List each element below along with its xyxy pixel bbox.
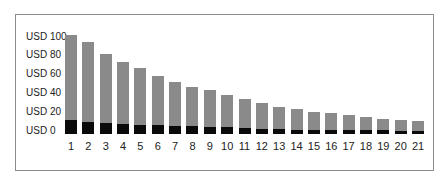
bar-1 bbox=[65, 35, 77, 134]
y-tick-label: USD 0 bbox=[26, 126, 70, 136]
bar-segment-base bbox=[325, 130, 337, 134]
x-tick-label: 18 bbox=[357, 141, 375, 152]
bar-21 bbox=[412, 121, 424, 134]
x-tick-label: 6 bbox=[149, 141, 167, 152]
x-tick-label: 19 bbox=[374, 141, 392, 152]
bar-segment-base bbox=[377, 130, 389, 134]
bar-segment-remainder bbox=[325, 113, 337, 130]
bar-16 bbox=[325, 113, 337, 134]
bar-segment-remainder bbox=[152, 76, 164, 125]
bar-segment-base bbox=[134, 125, 146, 134]
bar-segment-remainder bbox=[65, 35, 77, 120]
x-tick-label: 7 bbox=[166, 141, 184, 152]
bar-7 bbox=[169, 82, 181, 134]
bar-13 bbox=[273, 107, 285, 134]
bar-segment-base bbox=[204, 127, 216, 134]
bar-6 bbox=[152, 76, 164, 134]
y-tick-label: USD 20 bbox=[26, 107, 70, 117]
bar-segment-base bbox=[221, 127, 233, 134]
x-tick-label: 3 bbox=[97, 141, 115, 152]
x-tick-label: 15 bbox=[305, 141, 323, 152]
bar-12 bbox=[256, 103, 268, 134]
bar-segment-base bbox=[360, 130, 372, 134]
bar-segment-remainder bbox=[186, 87, 198, 126]
bar-10 bbox=[221, 95, 233, 134]
bar-5 bbox=[134, 68, 146, 134]
bar-segment-base bbox=[256, 129, 268, 134]
bar-14 bbox=[291, 109, 303, 134]
bar-segment-remainder bbox=[343, 115, 355, 130]
bar-segment-remainder bbox=[412, 121, 424, 131]
x-tick-label: 17 bbox=[340, 141, 358, 152]
bar-4 bbox=[117, 62, 129, 134]
y-tick-label: USD 40 bbox=[26, 88, 70, 98]
x-tick-label: 10 bbox=[218, 141, 236, 152]
bar-segment-base bbox=[82, 122, 94, 134]
bar-segment-base bbox=[273, 129, 285, 134]
y-tick-label: USD 100 bbox=[26, 32, 70, 42]
x-tick-label: 16 bbox=[322, 141, 340, 152]
bar-2 bbox=[82, 42, 94, 134]
x-tick-label: 12 bbox=[253, 141, 271, 152]
bar-segment-base bbox=[100, 123, 112, 134]
bar-segment-remainder bbox=[308, 112, 320, 129]
x-tick-label: 2 bbox=[79, 141, 97, 152]
bar-segment-base bbox=[169, 126, 181, 134]
bar-segment-remainder bbox=[395, 120, 407, 131]
bar-11 bbox=[239, 99, 251, 134]
x-tick-label: 11 bbox=[236, 141, 254, 152]
bar-3 bbox=[100, 54, 112, 134]
x-tick-label: 9 bbox=[201, 141, 219, 152]
bar-segment-base bbox=[186, 126, 198, 134]
bar-segment-base bbox=[117, 124, 129, 134]
bar-9 bbox=[204, 90, 216, 134]
bar-segment-base bbox=[239, 128, 251, 134]
x-tick-label: 21 bbox=[409, 141, 427, 152]
x-tick-label: 20 bbox=[392, 141, 410, 152]
bar-segment-base bbox=[308, 130, 320, 134]
y-tick-label: USD 80 bbox=[26, 50, 70, 60]
y-tick-label: USD 60 bbox=[26, 69, 70, 79]
bar-segment-remainder bbox=[82, 42, 94, 122]
bar-segment-remainder bbox=[239, 99, 251, 128]
x-tick-label: 8 bbox=[183, 141, 201, 152]
bar-segment-remainder bbox=[273, 107, 285, 130]
bar-18 bbox=[360, 117, 372, 134]
bar-segment-remainder bbox=[291, 109, 303, 130]
bar-segment-remainder bbox=[100, 54, 112, 123]
bar-segment-remainder bbox=[117, 62, 129, 124]
bar-segment-remainder bbox=[204, 90, 216, 127]
bar-19 bbox=[377, 119, 389, 134]
bar-segment-remainder bbox=[169, 82, 181, 126]
bar-segment-base bbox=[291, 130, 303, 134]
bar-segment-base bbox=[65, 120, 77, 134]
x-tick-label: 13 bbox=[270, 141, 288, 152]
bar-15 bbox=[308, 112, 320, 134]
bar-8 bbox=[186, 87, 198, 134]
bar-segment-base bbox=[343, 130, 355, 134]
bar-segment-remainder bbox=[360, 117, 372, 130]
bar-segment-base bbox=[152, 125, 164, 134]
x-tick-label: 4 bbox=[114, 141, 132, 152]
bar-segment-remainder bbox=[134, 68, 146, 124]
x-tick-label: 5 bbox=[131, 141, 149, 152]
bar-20 bbox=[395, 120, 407, 134]
bar-segment-remainder bbox=[221, 95, 233, 128]
bar-segment-base bbox=[412, 131, 424, 134]
bar-segment-remainder bbox=[256, 103, 268, 129]
bar-segment-remainder bbox=[377, 119, 389, 130]
bar-17 bbox=[343, 115, 355, 134]
bar-segment-base bbox=[395, 131, 407, 134]
x-tick-label: 1 bbox=[62, 141, 80, 152]
x-tick-label: 14 bbox=[288, 141, 306, 152]
